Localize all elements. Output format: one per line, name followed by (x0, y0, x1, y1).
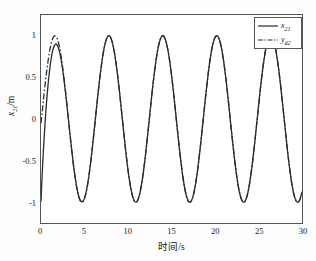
series-yd2-line (41, 36, 302, 202)
x-tick-25: 25 (255, 226, 264, 236)
y-tick-1: 1 (8, 30, 36, 40)
x-tick-15: 15 (167, 226, 176, 236)
x-axis-label: 时间/s (40, 239, 303, 253)
legend-label-x21: x21 (281, 21, 291, 32)
y-tick--0.5: -0.5 (8, 156, 36, 166)
y-tick--1: -1 (8, 198, 36, 208)
x-tick-20: 20 (211, 226, 220, 236)
legend-item-yd2: yd2 (258, 34, 298, 46)
x-tick-5: 5 (82, 226, 86, 236)
y-axis-label-text: x21/m (6, 96, 16, 116)
x-tick-30: 30 (299, 226, 308, 236)
x-tick-10: 10 (123, 226, 132, 236)
x-tick-0: 0 (38, 226, 42, 236)
legend-sample-solid (258, 22, 278, 30)
legend-box: x21 yd2 (254, 17, 302, 49)
legend-label-yd2: yd2 (281, 35, 291, 46)
legend-item-x21: x21 (258, 20, 298, 32)
figure-canvas: 051015202530 10.50-0.5-1 时间/s x21/m x21 … (0, 0, 316, 261)
y-axis-label: x21/m (6, 76, 18, 136)
legend-sample-dashdot (258, 36, 278, 44)
series-x21-line (41, 36, 302, 202)
